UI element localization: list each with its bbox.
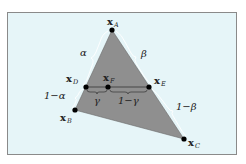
svg-text:B: B xyxy=(66,117,72,125)
point-f xyxy=(105,84,110,89)
svg-text:x: x xyxy=(188,137,195,148)
point-d xyxy=(83,84,88,89)
svg-text:D: D xyxy=(72,78,79,86)
label-one-minus-gamma: 1−γ xyxy=(118,95,139,106)
triangle-abc xyxy=(75,30,184,139)
label-a: x A xyxy=(107,16,119,29)
svg-text:C: C xyxy=(195,142,200,150)
label-b: x B xyxy=(60,112,72,125)
svg-text:x: x xyxy=(154,75,161,86)
barycentric-triangle-diagram: x A x B x C x D x E x F α 1−α β 1−β γ 1−… xyxy=(0,0,246,164)
label-one-minus-beta: 1−β xyxy=(176,101,197,112)
label-e: x E xyxy=(154,75,166,88)
label-one-minus-alpha: 1−α xyxy=(44,90,66,101)
svg-text:x: x xyxy=(66,73,73,84)
label-alpha: α xyxy=(80,47,87,58)
point-c xyxy=(181,136,186,141)
svg-text:x: x xyxy=(107,16,114,27)
point-b xyxy=(72,107,77,112)
point-e xyxy=(146,84,151,89)
label-c: x C xyxy=(188,137,200,150)
svg-text:E: E xyxy=(160,80,166,88)
svg-text:A: A xyxy=(113,21,119,29)
svg-text:x: x xyxy=(60,112,67,123)
label-gamma: γ xyxy=(94,95,100,106)
svg-text:F: F xyxy=(109,77,115,85)
label-d: x D xyxy=(66,73,79,86)
label-beta: β xyxy=(140,48,147,59)
svg-text:x: x xyxy=(103,72,110,83)
